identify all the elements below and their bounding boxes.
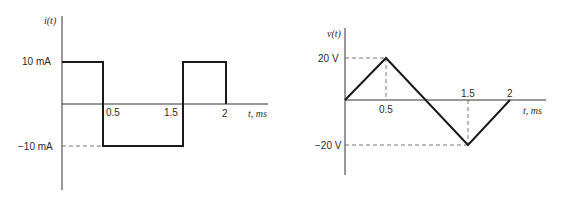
current-waveform-plot: i(t) 10 mA −10 mA 0.5 1.5 2 t, ms [18,15,268,190]
y-axis-label: i(t) [44,15,57,27]
x-tick-1-5: 1.5 [164,107,178,118]
y-axis-label: v(t) [327,28,342,40]
diagram-canvas: i(t) 10 mA −10 mA 0.5 1.5 2 t, ms v(t) 2… [0,0,565,198]
x-tick-0-5: 0.5 [379,104,393,115]
y-tick-positive: 20 V [318,53,339,64]
x-tick-2: 2 [222,108,228,119]
x-tick-1-5: 1.5 [461,88,475,99]
x-axis-label: t, ms [523,105,542,116]
voltage-triangle-wave [345,58,510,145]
y-tick-negative: −10 mA [18,141,53,152]
y-tick-positive: 10 mA [22,56,51,67]
x-tick-2: 2 [507,88,513,99]
x-axis-label: t, ms [248,108,267,119]
voltage-waveform-plot: v(t) 20 V −20 V 0.5 1.5 2 t, ms [315,28,546,175]
x-tick-0-5: 0.5 [106,107,120,118]
y-tick-negative: −20 V [315,140,342,151]
